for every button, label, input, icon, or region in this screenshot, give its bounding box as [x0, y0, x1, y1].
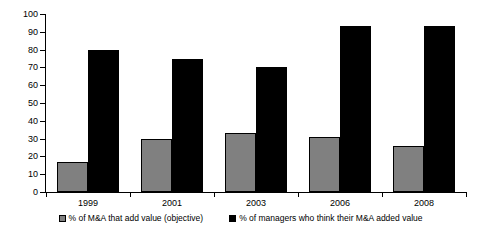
bar-group	[141, 14, 203, 192]
chart-legend: % of M&A that add value (objective)% of …	[0, 213, 481, 223]
x-axis-category-label: 2006	[330, 198, 350, 208]
y-axis-tick-label: 30	[12, 135, 38, 144]
bar-group	[393, 14, 455, 192]
y-axis-tick-label: 100	[12, 10, 38, 19]
y-axis-tick-label: 60	[12, 81, 38, 90]
bar	[88, 50, 119, 192]
y-axis-tick-label: 40	[12, 117, 38, 126]
bar-group	[57, 14, 119, 192]
bar	[256, 67, 287, 192]
legend-swatch-gray-icon	[59, 215, 66, 222]
x-axis-category-label: 2003	[246, 198, 266, 208]
bar	[340, 26, 371, 192]
y-axis-tick-label: 0	[12, 188, 38, 197]
legend-label: % of managers who think their M&A added …	[239, 213, 422, 223]
bar	[393, 146, 424, 192]
y-axis-tick-label: 50	[12, 99, 38, 108]
bar	[57, 162, 88, 192]
y-axis-tick-label: 80	[12, 46, 38, 55]
bar	[309, 137, 340, 192]
bar	[424, 26, 455, 192]
x-axis-tick	[214, 192, 215, 197]
bar-group	[309, 14, 371, 192]
bar	[172, 59, 203, 193]
bar-chart: 0102030405060708090100 19992001200320062…	[0, 0, 481, 235]
x-axis-tick	[130, 192, 131, 197]
y-axis-tick-label: 70	[12, 63, 38, 72]
y-axis-tick-label: 10	[12, 170, 38, 179]
x-axis-line	[45, 192, 466, 193]
x-axis-tick	[466, 192, 467, 197]
x-axis-tick	[298, 192, 299, 197]
x-axis-category-label: 2008	[414, 198, 434, 208]
y-axis-tick-label: 20	[12, 152, 38, 161]
bar	[141, 139, 172, 192]
x-axis-category-label: 1999	[78, 198, 98, 208]
y-axis-tick-label: 90	[12, 28, 38, 37]
y-axis-labels: 0102030405060708090100	[0, 0, 38, 235]
x-axis-tick	[382, 192, 383, 197]
x-axis-tick	[46, 192, 47, 197]
legend-item: % of M&A that add value (objective)	[59, 213, 204, 223]
bar-group	[225, 14, 287, 192]
legend-label: % of M&A that add value (objective)	[69, 213, 204, 223]
legend-swatch-black-icon	[229, 215, 236, 222]
plot-area	[46, 14, 466, 192]
bar	[225, 133, 256, 192]
x-axis-category-label: 2001	[162, 198, 182, 208]
legend-item: % of managers who think their M&A added …	[229, 213, 422, 223]
